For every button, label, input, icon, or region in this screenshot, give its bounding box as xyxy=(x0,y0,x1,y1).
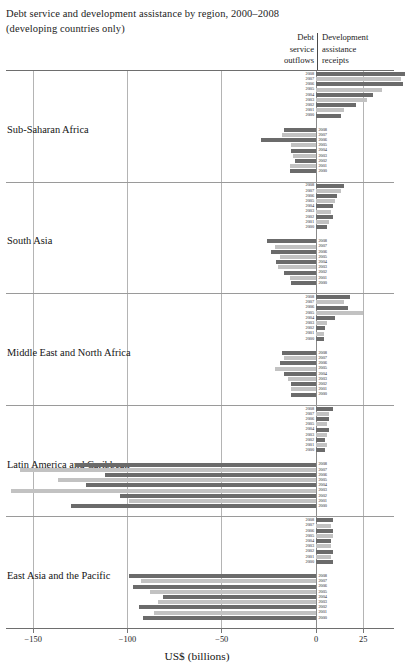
year-label: 2000 xyxy=(300,337,314,341)
bar-debt-service xyxy=(141,579,316,583)
bar-aid xyxy=(316,295,350,299)
bar-aid xyxy=(316,518,333,522)
bar-debt-service xyxy=(284,356,316,360)
bar-aid xyxy=(316,98,367,102)
bar-aid xyxy=(316,524,331,528)
bar-debt-service xyxy=(291,387,316,391)
bar-debt-service xyxy=(129,499,316,503)
region-separator-rule xyxy=(6,293,394,294)
bar-aid xyxy=(316,412,329,416)
column-header-aid-line-3: receipts xyxy=(322,55,394,67)
region-separator-rule xyxy=(6,405,394,406)
bar-debt-service xyxy=(288,377,316,381)
column-header-divider xyxy=(317,33,318,71)
bar-aid xyxy=(316,210,331,214)
bar-aid xyxy=(316,544,331,548)
bar-aid xyxy=(316,443,327,447)
bar-aid xyxy=(316,114,341,118)
bar-debt-service xyxy=(150,590,316,594)
bar-debt-service xyxy=(267,239,316,243)
bar-aid xyxy=(316,316,335,320)
bar-aid xyxy=(316,555,331,559)
column-header-debt-line-3: outflows xyxy=(266,55,314,67)
bar-aid xyxy=(316,204,333,208)
bar-aid xyxy=(316,422,327,426)
bar-debt-service xyxy=(71,504,316,508)
bar-debt-service xyxy=(280,255,316,259)
bar-debt-service xyxy=(295,159,316,163)
bar-debt-service xyxy=(163,595,316,599)
bar-aid xyxy=(316,326,325,330)
region-separator-rule xyxy=(6,516,394,517)
bar-aid xyxy=(316,220,329,224)
bar-aid xyxy=(316,103,356,107)
bar-aid xyxy=(316,199,335,203)
year-label: 2000 xyxy=(319,169,333,173)
bar-debt-service xyxy=(139,605,316,609)
bar-debt-service xyxy=(291,393,316,397)
bar-aid xyxy=(316,417,329,421)
axis-tick-label: 0 xyxy=(314,635,318,644)
bar-aid xyxy=(316,194,337,198)
bar-debt-service xyxy=(271,250,316,254)
bar-debt-service xyxy=(280,361,316,365)
bar-debt-service xyxy=(282,133,316,137)
x-axis-title: US$ (billions) xyxy=(0,650,394,662)
bar-debt-service xyxy=(275,367,316,371)
year-label: 2000 xyxy=(319,616,333,620)
axis-tick-label: −150 xyxy=(25,635,42,644)
year-label: 2000 xyxy=(300,560,314,564)
bar-aid xyxy=(316,407,333,411)
column-header-development-assistance: Development assistance receipts xyxy=(322,32,394,67)
year-label: 2000 xyxy=(319,392,333,396)
bar-aid xyxy=(316,534,333,538)
region-label: Sub-Saharan Africa xyxy=(7,124,89,135)
plot-area: Sub-Saharan Africa2008200720062005200420… xyxy=(0,70,394,628)
bar-debt-service xyxy=(261,138,316,142)
bar-aid xyxy=(316,72,405,76)
bar-aid xyxy=(316,189,341,193)
bar-aid xyxy=(316,300,344,304)
bar-debt-service xyxy=(290,276,316,280)
axis-tick xyxy=(221,628,222,633)
bar-debt-service xyxy=(293,154,316,158)
bar-aid xyxy=(316,433,327,437)
region-label: South Asia xyxy=(7,235,52,246)
bar-aid xyxy=(316,184,344,188)
bar-aid xyxy=(316,306,348,310)
axis-tick-label: −100 xyxy=(119,635,136,644)
bar-debt-service xyxy=(275,245,316,249)
bar-debt-service xyxy=(120,494,316,498)
bar-debt-service xyxy=(105,473,316,477)
bar-aid xyxy=(316,448,325,452)
chart-title-line-1: Debt service and development assistance … xyxy=(6,6,336,21)
year-label: 2000 xyxy=(300,113,314,117)
bar-aid xyxy=(316,332,324,336)
bar-aid xyxy=(316,539,331,543)
bar-debt-service xyxy=(291,143,316,147)
bar-debt-service xyxy=(284,372,316,376)
bar-aid xyxy=(316,428,329,432)
region-band xyxy=(0,182,394,294)
bar-aid xyxy=(316,311,363,315)
region-label: Middle East and North Africa xyxy=(7,347,131,358)
bar-debt-service xyxy=(276,260,316,264)
column-header-debt-line-2: service xyxy=(266,44,314,56)
axis-tick xyxy=(33,628,34,633)
bar-debt-service xyxy=(284,128,316,132)
bar-debt-service xyxy=(133,585,316,589)
axis-tick-label: 25 xyxy=(359,635,367,644)
bar-aid xyxy=(316,438,325,442)
bar-debt-service xyxy=(20,468,316,472)
bar-aid xyxy=(316,93,373,97)
bar-aid xyxy=(316,560,333,564)
bar-aid xyxy=(316,88,382,92)
x-axis: US$ (billions) −150−100−50025 xyxy=(0,628,394,669)
bar-debt-service xyxy=(278,265,316,269)
bar-debt-service xyxy=(86,483,316,487)
bar-aid xyxy=(316,77,401,81)
axis-tick xyxy=(127,628,128,633)
bar-aid xyxy=(316,108,344,112)
bar-debt-service xyxy=(75,463,316,467)
year-label: 2000 xyxy=(300,225,314,229)
